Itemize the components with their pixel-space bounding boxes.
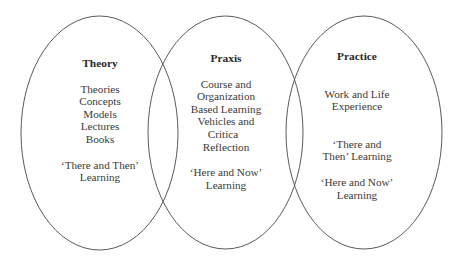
praxis-item: Based Learning xyxy=(190,103,263,116)
praxis-title: Praxis xyxy=(190,52,263,65)
praxis-item: Organization xyxy=(190,90,263,103)
theory-label-group: Theory Theories Concepts Models Lectures… xyxy=(61,57,139,184)
spacer xyxy=(321,63,394,88)
praxis-item: Vehicles and xyxy=(190,115,263,128)
praxis-label-group: Praxis Course and Organization Based Lea… xyxy=(190,52,263,191)
theory-learning-mode: ‘There and Then’ xyxy=(61,159,139,172)
praxis-learning-mode: ‘Here and Now’ xyxy=(190,166,263,179)
venn-diagram: Theory Theories Concepts Models Lectures… xyxy=(0,0,463,262)
theory-title: Theory xyxy=(61,57,139,70)
praxis-item: Reflection xyxy=(190,141,263,154)
practice-label-group: Practice Work and Life Experience ‘There… xyxy=(321,50,394,201)
theory-learning-mode: Learning xyxy=(61,171,139,184)
spacer xyxy=(190,153,263,166)
practice-item: Work and Life xyxy=(321,88,394,101)
practice-learning-then: Then’ Learning xyxy=(321,150,394,163)
practice-title: Practice xyxy=(321,50,394,63)
practice-learning-then: ‘There and xyxy=(321,138,394,151)
praxis-item: Critica xyxy=(184,128,263,141)
theory-item: Concepts xyxy=(61,95,139,108)
practice-learning-now: Learning xyxy=(321,189,394,202)
praxis-learning-mode: Learning xyxy=(190,179,263,192)
praxis-item: Course and xyxy=(190,78,263,91)
spacer xyxy=(190,65,263,78)
theory-item: Books xyxy=(61,133,139,146)
theory-item: Theories xyxy=(61,83,139,96)
spacer xyxy=(61,70,139,83)
spacer xyxy=(61,146,139,159)
practice-learning-now: ‘Here and Now’ xyxy=(321,176,394,189)
spacer xyxy=(321,113,394,138)
theory-item: Lectures xyxy=(61,120,139,133)
practice-item: Experience xyxy=(321,100,394,113)
theory-item: Models xyxy=(61,108,139,121)
spacer xyxy=(321,163,394,176)
